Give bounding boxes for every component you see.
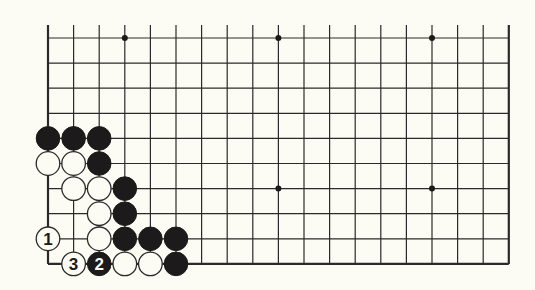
black-stone (113, 202, 137, 226)
white-stone (87, 177, 111, 201)
white-stone (139, 252, 163, 276)
go-board-diagram: 132 (0, 0, 535, 290)
board-grid (48, 25, 509, 264)
star-point-icon (122, 35, 128, 41)
black-stone-icon (113, 177, 137, 201)
black-stone (164, 252, 188, 276)
black-stone-icon (62, 127, 86, 151)
star-point-icon (275, 35, 281, 41)
black-stone (164, 227, 188, 251)
stones-layer: 132 (36, 127, 188, 276)
white-stone (36, 152, 60, 176)
black-stone-icon (87, 152, 111, 176)
white-stone (87, 202, 111, 226)
white-stone (87, 227, 111, 251)
black-stone-icon (164, 252, 188, 276)
white-stone-icon (62, 177, 86, 201)
black-stone (36, 127, 60, 151)
black-stone (62, 127, 86, 151)
white-stone-icon (87, 177, 111, 201)
black-stone (113, 177, 137, 201)
black-stone (113, 227, 137, 251)
white-stone (113, 252, 137, 276)
white-stone (62, 177, 86, 201)
white-stone-icon (87, 227, 111, 251)
black-stone-icon (36, 127, 60, 151)
black-stone-icon (113, 202, 137, 226)
move-number-label: 1 (43, 230, 52, 249)
black-stone-icon (87, 127, 111, 151)
star-point-icon (429, 186, 435, 192)
black-stone-icon (113, 227, 137, 251)
black-stone-icon (139, 227, 163, 251)
white-stone-icon (113, 252, 137, 276)
star-point-icon (275, 186, 281, 192)
move-number-label: 3 (69, 255, 78, 274)
black-stone-icon (164, 227, 188, 251)
black-stone (139, 227, 163, 251)
black-stone (87, 152, 111, 176)
star-point-icon (429, 35, 435, 41)
white-stone-icon (139, 252, 163, 276)
white-stone: 1 (36, 227, 60, 251)
white-stone-icon (87, 202, 111, 226)
white-stone (62, 152, 86, 176)
white-stone: 3 (62, 252, 86, 276)
black-stone: 2 (87, 252, 111, 276)
move-number-label: 2 (94, 255, 103, 274)
white-stone-icon (62, 152, 86, 176)
black-stone (87, 127, 111, 151)
white-stone-icon (36, 152, 60, 176)
